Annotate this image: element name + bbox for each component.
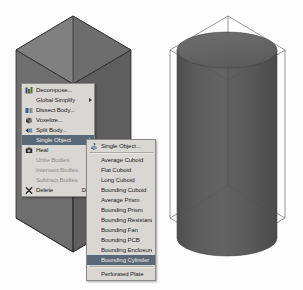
menu-item-intersect-bodies: Intersect Bodies [22, 165, 94, 175]
voxelize-icon [24, 116, 33, 125]
single-object-submenu[interactable]: Single Object... Average Cuboid Flat Cub… [86, 139, 156, 281]
menu-item-label: Heal [36, 147, 91, 153]
bounding-cylinder-preview [170, 16, 285, 256]
menu-item-label: Global Simplify [36, 97, 91, 103]
menu-item-split-body[interactable]: Split Body... [22, 125, 94, 135]
menu-item-label: Delete [36, 187, 78, 193]
menu-item-label: Split Body... [36, 127, 91, 133]
submenu-item-label: Bounding Resistance [101, 217, 152, 223]
submenu-item-label: Bounding Enclosure [101, 247, 152, 253]
submenu-item-bounding-resistance[interactable]: Bounding Resistance [87, 215, 155, 225]
menu-item-label: Voxelize... [36, 117, 91, 123]
submenu-item-label: Bounding Cylinder [101, 257, 152, 263]
menu-separator [89, 266, 153, 268]
menu-item-single-object[interactable]: Single Object [22, 135, 94, 145]
submenu-item-label: Average Cuboid [101, 157, 152, 163]
menu-item-label: Dissect Body... [36, 107, 91, 113]
menu-item-label: Decompose... [36, 87, 91, 93]
submenu-item-long-cuboid[interactable]: Long Cuboid [87, 175, 155, 185]
menu-item-unite-bodies: Unite Bodies [22, 155, 94, 165]
menu-item-label: Single Object [36, 137, 91, 143]
submenu-item-label: Bounding Fan [101, 227, 152, 233]
submenu-item-single-object[interactable]: Single Object... [87, 141, 155, 151]
menu-separator [89, 152, 153, 154]
submenu-item-label: Average Prism [101, 197, 152, 203]
split-body-icon [24, 126, 33, 135]
submenu-item-bounding-enclosure[interactable]: Bounding Enclosure [87, 245, 155, 255]
menu-item-dissect-body[interactable]: Dissect Body... [22, 105, 94, 115]
cylinder-side [177, 50, 277, 256]
menu-item-label: Subtract Bodies [36, 177, 91, 183]
submenu-item-label: Long Cuboid [101, 177, 152, 183]
submenu-item-bounding-pcb[interactable]: Bounding PCB [87, 235, 155, 245]
dissect-icon [24, 106, 33, 115]
chevron-right-icon [89, 98, 92, 102]
menu-item-decompose[interactable]: Decompose... [22, 85, 94, 95]
submenu-item-label: Bounding Prism [101, 207, 152, 213]
submenu-item-label: Perforated Plate [101, 271, 152, 277]
submenu-item-bounding-prism[interactable]: Bounding Prism [87, 205, 155, 215]
submenu-item-average-cuboid[interactable]: Average Cuboid [87, 155, 155, 165]
menu-item-heal[interactable]: Heal [22, 145, 94, 155]
single-object-icon [89, 142, 98, 151]
menu-item-delete[interactable]: Delete Del [22, 185, 94, 195]
submenu-item-label: Flat Cuboid [101, 167, 152, 173]
submenu-item-bounding-fan[interactable]: Bounding Fan [87, 225, 155, 235]
body-context-menu[interactable]: Decompose... Global Simplify Dissect Bod… [21, 83, 95, 197]
menu-item-subtract-bodies: Subtract Bodies [22, 175, 94, 185]
submenu-item-label: Single Object... [101, 143, 152, 149]
heal-icon [24, 146, 33, 155]
submenu-item-average-prism[interactable]: Average Prism [87, 195, 155, 205]
submenu-item-label: Bounding Cuboid [101, 187, 152, 193]
menu-item-label: Intersect Bodies [36, 167, 91, 173]
submenu-item-flat-cuboid[interactable]: Flat Cuboid [87, 165, 155, 175]
cylinder-top-cap [177, 32, 277, 68]
submenu-item-bounding-cuboid[interactable]: Bounding Cuboid [87, 185, 155, 195]
submenu-item-bounding-cylinder[interactable]: Bounding Cylinder [87, 255, 155, 265]
decompose-icon [24, 86, 33, 95]
screenshot-root: Decompose... Global Simplify Dissect Bod… [0, 0, 303, 290]
submenu-item-label: Bounding PCB [101, 237, 152, 243]
submenu-item-perforated-plate[interactable]: Perforated Plate [87, 269, 155, 279]
menu-item-voxelize[interactable]: Voxelize... [22, 115, 94, 125]
menu-item-global-simplify[interactable]: Global Simplify [22, 95, 94, 105]
menu-item-label: Unite Bodies [36, 157, 91, 163]
delete-x-icon [24, 186, 33, 195]
